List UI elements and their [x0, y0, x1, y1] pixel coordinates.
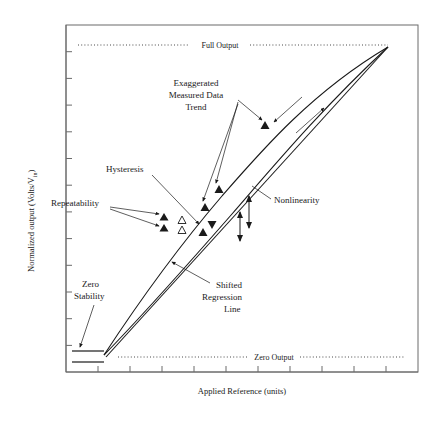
repeatability-label: Repeatability [51, 198, 99, 208]
zero-stability-label-line2: Stability [74, 291, 105, 301]
shifted-label-line1: Shifted [216, 280, 242, 290]
zero-output-label: Zero Output [254, 353, 294, 362]
x-axis-label-group: Applied Reference (units) [198, 386, 286, 396]
nonlinearity-label: Nonlinearity [274, 195, 320, 205]
exaggerated-label-line2: Measured Data [169, 90, 224, 100]
shifted-label-line3: Line [224, 304, 241, 314]
hysteresis-label: Hysteresis [106, 164, 144, 174]
exaggerated-label-line1: Exaggerated [174, 78, 219, 88]
full-output-label: Full Output [201, 41, 239, 50]
y-axis-label-group: Normalized output (Volts/Vin) [26, 170, 38, 272]
x-axis-label: Applied Reference (units) [198, 386, 286, 396]
shifted-label-line2: Regression [202, 292, 242, 302]
svg-text:Normalized output (Volts/Vin): Normalized output (Volts/Vin) [26, 170, 38, 272]
zero-stability-label-line1: Zero [82, 279, 99, 289]
plot-frame [66, 25, 418, 372]
sensor-error-diagram: Full Output Zero Output [0, 0, 432, 424]
exaggerated-label-line3: Trend [185, 102, 207, 112]
y-axis-label-main: Normalized output (Volts/V [26, 176, 36, 272]
y-axis-label-close: ) [26, 170, 36, 173]
